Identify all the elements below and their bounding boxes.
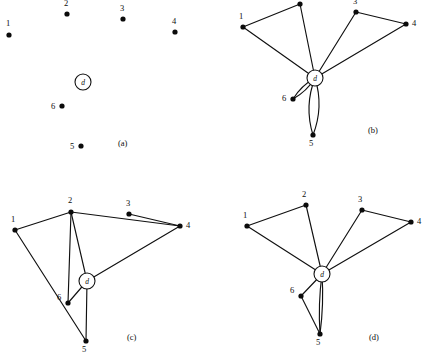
node-label-c-1: 1: [11, 214, 15, 224]
node-c-3[interactable]: 3: [126, 198, 132, 217]
edge-c-4-d: [87, 226, 180, 281]
depot-b[interactable]: d: [307, 70, 323, 86]
edge-c-2-d: [71, 212, 87, 281]
edge-b-d-5: [309, 78, 315, 135]
node-label-a-4: 4: [172, 16, 177, 26]
edge-c-2-6: [68, 212, 71, 303]
node-d-2[interactable]: 2: [302, 189, 309, 208]
edge-d-2-d: [306, 205, 322, 274]
node-dot-c-5: [83, 338, 88, 343]
node-dot-a-4: [172, 29, 177, 34]
node-label-b-3: 3: [353, 0, 357, 6]
node-a-5[interactable]: 5: [70, 141, 84, 151]
edge-c-1-5: [15, 230, 86, 341]
node-label-a-5: 5: [70, 141, 74, 151]
edge-d-4-d: [322, 222, 411, 274]
depot-label-b: d: [313, 74, 317, 83]
edge-b-d-5: [313, 78, 319, 135]
node-dot-d-4: [408, 219, 413, 224]
edge-d-1-2: [247, 205, 306, 226]
edge-b-4-d: [315, 24, 406, 78]
node-c-1[interactable]: 1: [11, 214, 18, 233]
node-dot-d-2: [303, 202, 308, 207]
node-a-2[interactable]: 2: [64, 0, 70, 17]
node-dot-a-3: [120, 16, 125, 21]
node-dot-b-1: [240, 24, 245, 29]
node-dot-c-3: [126, 211, 131, 216]
node-dot-b-5: [310, 132, 315, 137]
panel-a: 123456d(a): [6, 0, 178, 151]
node-label-b-6: 6: [282, 93, 286, 103]
edge-c-1-2: [15, 212, 71, 230]
edge-group-b: [243, 4, 406, 135]
node-dot-b-4: [403, 21, 408, 26]
node-b-6[interactable]: 6: [282, 93, 296, 103]
edge-d-3-d: [322, 210, 362, 274]
edge-c-2-4: [71, 212, 180, 226]
node-d-5[interactable]: 5: [316, 331, 323, 347]
node-label-c-5: 5: [82, 344, 86, 354]
vehicle-routing-figure: 123456d(a)123456d(b)123456d(c)123456d(d): [0, 0, 426, 364]
node-label-b-5: 5: [309, 138, 313, 148]
node-c-4[interactable]: 4: [177, 220, 191, 230]
node-dot-d-1: [244, 223, 249, 228]
depot-d[interactable]: d: [314, 266, 330, 282]
node-b-5[interactable]: 5: [309, 132, 316, 148]
node-dot-b-2: [297, 1, 302, 6]
panel-c: 123456d(c): [11, 195, 191, 354]
node-d-6[interactable]: 6: [290, 285, 304, 299]
panel-caption-c: (c): [127, 332, 137, 342]
node-a-4[interactable]: 4: [172, 16, 178, 35]
node-d-3[interactable]: 3: [358, 194, 365, 213]
node-b-1[interactable]: 1: [239, 11, 246, 30]
depot-label-a: d: [81, 78, 85, 87]
edge-b-1-d: [243, 27, 315, 78]
node-dot-a-5: [78, 143, 83, 148]
panel-caption-b: (b): [368, 125, 378, 135]
node-label-c-3: 3: [126, 198, 130, 208]
node-b-3[interactable]: 3: [353, 0, 359, 15]
node-a-6[interactable]: 6: [51, 101, 65, 111]
node-label-a-1: 1: [6, 18, 10, 28]
panel-b: 123456d(b): [239, 0, 417, 148]
edge-b-3-d: [315, 12, 356, 78]
node-d-4[interactable]: 4: [408, 216, 422, 226]
node-a-1[interactable]: 1: [6, 18, 12, 38]
node-label-d-4: 4: [417, 216, 422, 226]
node-c-5[interactable]: 5: [82, 338, 89, 354]
node-dot-a-2: [64, 11, 69, 16]
node-label-d-6: 6: [290, 285, 294, 295]
depot-label-c: d: [85, 277, 89, 286]
edge-d-6-5: [301, 296, 320, 334]
node-dot-d-6: [298, 293, 303, 298]
node-label-c-6: 6: [57, 292, 61, 302]
node-c-2[interactable]: 2: [68, 195, 74, 215]
node-label-a-6: 6: [51, 101, 55, 111]
panel-caption-d: (d): [369, 332, 379, 342]
node-dot-d-5: [317, 331, 322, 336]
node-dot-b-3: [353, 9, 358, 14]
node-label-d-1: 1: [243, 210, 247, 220]
node-label-c-2: 2: [68, 195, 72, 205]
edge-b-2-d: [300, 4, 315, 78]
figure-canvas: 123456d(a)123456d(b)123456d(c)123456d(d): [0, 0, 426, 364]
node-dot-c-1: [12, 227, 17, 232]
node-dot-d-3: [359, 207, 364, 212]
node-b-2[interactable]: 2: [297, 0, 303, 7]
node-b-4[interactable]: 4: [403, 18, 417, 28]
edge-group-c: [15, 212, 180, 341]
panel-caption-a: (a): [118, 138, 128, 148]
node-a-3[interactable]: 3: [120, 3, 126, 22]
node-dot-c-4: [177, 223, 182, 228]
depot-a[interactable]: d: [75, 74, 91, 90]
depot-c[interactable]: d: [79, 273, 95, 289]
node-label-d-5: 5: [316, 337, 320, 347]
edge-d-1-d: [247, 226, 322, 274]
node-label-d-2: 2: [302, 189, 306, 199]
node-d-1[interactable]: 1: [243, 210, 250, 229]
node-label-b-1: 1: [239, 11, 243, 21]
node-dot-a-1: [6, 32, 11, 37]
node-dot-c-6: [65, 300, 70, 305]
node-label-d-3: 3: [358, 194, 362, 204]
depot-label-d: d: [320, 270, 324, 279]
